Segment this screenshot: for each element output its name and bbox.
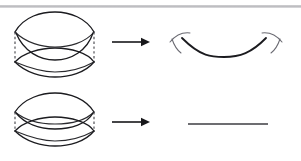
lens-top-upper-edge: [15, 12, 94, 32]
transform-arrow-top: [112, 38, 150, 46]
flat-lens-front-band: [16, 113, 93, 129]
limit-curve-concave: [170, 33, 282, 57]
limit-curve-cusp-left-lower: [172, 39, 181, 53]
limit-curve-main-arc: [182, 38, 266, 57]
diagram-canvas: [0, 0, 301, 161]
lens-top-seam-edge: [15, 32, 94, 47]
transform-arrow-top-head: [141, 38, 150, 46]
limit-curve-cusp-right-lower: [271, 39, 280, 53]
flat-lens-top-upper-edge: [15, 93, 94, 112]
flat-lens-lower-top-edge: [15, 131, 94, 146]
lens-lower-top-edge: [15, 62, 94, 77]
transform-arrow-bottom-head: [141, 118, 150, 126]
lens-solid-flat: [15, 93, 94, 146]
lens-solid-curved: [15, 12, 94, 77]
transform-arrow-bottom: [112, 118, 150, 126]
figure-root: Degeneration of lens solids to limit cur…: [0, 0, 301, 161]
